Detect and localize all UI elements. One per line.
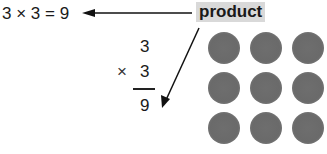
result-bar — [133, 88, 155, 90]
dot — [292, 72, 324, 104]
arrow-to-equation-icon — [82, 9, 192, 17]
dot — [292, 32, 324, 64]
result: 9 — [140, 96, 149, 116]
factor-2: 3 — [140, 62, 149, 82]
factor-1: 3 — [140, 37, 149, 57]
dot — [292, 112, 324, 144]
dot — [208, 112, 240, 144]
arrow-to-result-icon — [161, 28, 199, 108]
dot — [250, 32, 282, 64]
dot — [208, 32, 240, 64]
dot — [208, 72, 240, 104]
dot — [250, 112, 282, 144]
times-symbol: × — [117, 62, 127, 82]
dot — [250, 72, 282, 104]
